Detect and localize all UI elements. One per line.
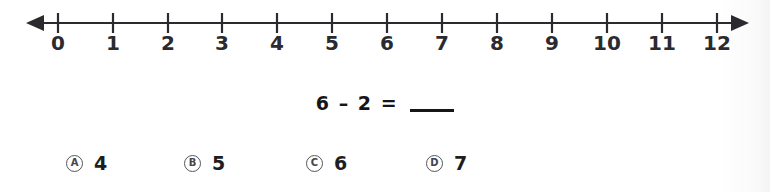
equation-operator: – [339, 92, 350, 114]
choice-letter-d: D [426, 155, 443, 172]
choice-letter-a: A [66, 155, 83, 172]
choice-value-c: 6 [334, 154, 347, 173]
number-line-label-7: 7 [435, 33, 449, 53]
number-line-label-12: 12 [703, 33, 731, 53]
equation-second-operand: 2 [358, 92, 373, 114]
worksheet-page: 0 1 2 3 4 5 6 7 8 9 10 11 12 6 – 2 = A 4… [0, 0, 770, 192]
answer-blank[interactable] [410, 109, 454, 112]
right-arrowhead-icon [731, 15, 749, 31]
choice-value-a: 4 [94, 154, 107, 173]
number-line-label-9: 9 [545, 33, 559, 53]
choice-option-c[interactable]: C 6 [306, 150, 347, 176]
number-line-label-0: 0 [51, 33, 65, 53]
number-line-label-11: 11 [648, 33, 676, 53]
choice-option-d[interactable]: D 7 [426, 150, 467, 176]
choice-option-a[interactable]: A 4 [66, 150, 107, 176]
number-line-label-5: 5 [325, 33, 339, 53]
equation-first-operand: 6 [316, 92, 331, 114]
choice-value-b: 5 [212, 154, 225, 173]
choice-letter-b: B [184, 155, 201, 172]
number-line-label-1: 1 [106, 33, 120, 53]
choice-option-b[interactable]: B 5 [184, 150, 225, 176]
number-line-label-4: 4 [270, 33, 284, 53]
left-arrowhead-icon [26, 15, 44, 31]
number-line-label-2: 2 [161, 33, 175, 53]
equation: 6 – 2 = [0, 92, 770, 114]
answer-choices: A 4 B 5 C 6 D 7 [0, 150, 770, 182]
number-line-label-10: 10 [593, 33, 621, 53]
choice-letter-c: C [306, 155, 323, 172]
number-line-label-6: 6 [380, 33, 394, 53]
equation-equals-sign: = [381, 92, 398, 114]
choice-value-d: 7 [454, 154, 467, 173]
number-line-label-3: 3 [215, 33, 229, 53]
number-line: 0 1 2 3 4 5 6 7 8 9 10 11 12 [0, 0, 770, 70]
number-line-label-8: 8 [490, 33, 504, 53]
